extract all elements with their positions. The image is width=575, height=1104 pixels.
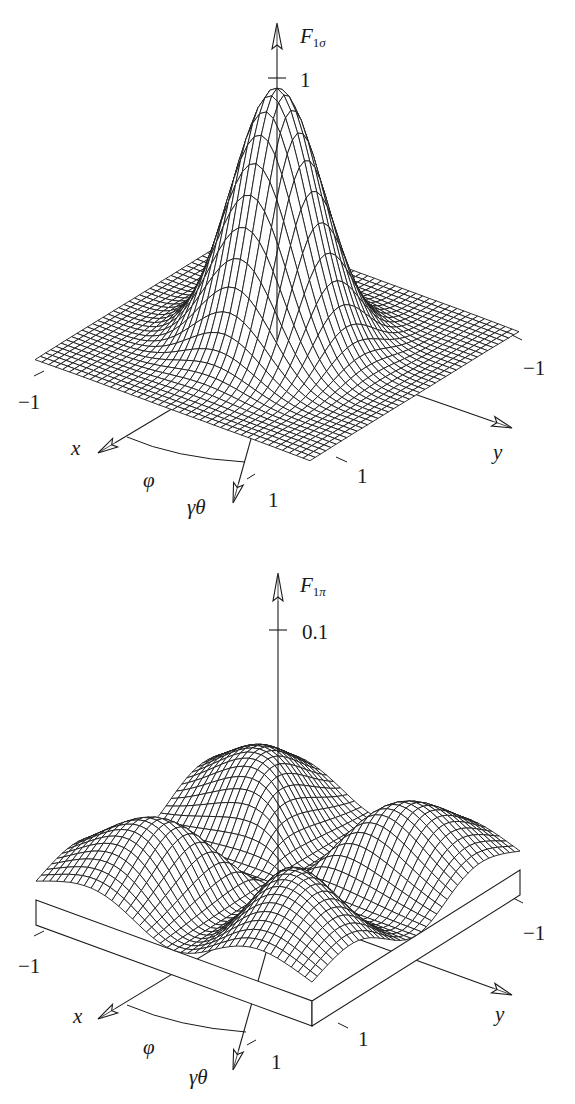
chart-panel-f1sigma: F1σ 1 −1 −1 1 1 x y φ γθ xyxy=(0,0,575,540)
x-axis-label: x xyxy=(71,438,80,459)
surface-plot-f1sigma xyxy=(0,0,575,540)
y-tick-minus-label: −1 xyxy=(523,923,545,944)
z-tick-label: 1 xyxy=(300,70,311,91)
y-axis-label: y xyxy=(493,442,502,463)
z-axis-label: F1σ xyxy=(300,26,326,49)
z-tick-label: 0.1 xyxy=(302,622,328,643)
y-tick-minus-label: −1 xyxy=(523,358,545,379)
surface-plot-f1pi xyxy=(0,540,575,1104)
gamma-theta-label: γθ xyxy=(187,497,206,518)
phi-label: φ xyxy=(143,1037,155,1058)
z-axis-label: F1π xyxy=(300,575,326,598)
gamma-theta-label: γθ xyxy=(189,1067,208,1088)
phi-angle-arc xyxy=(127,437,245,462)
x-axis-label: x xyxy=(73,1006,82,1027)
x-tick-minus-label: −1 xyxy=(18,392,40,413)
y-tick-plus-label: 1 xyxy=(357,466,368,487)
x-tick-minus-label: −1 xyxy=(18,956,40,977)
y-tick-plus-label: 1 xyxy=(358,1029,369,1050)
phi-angle-arc xyxy=(127,1005,246,1032)
x-tick-plus-label: 1 xyxy=(268,490,279,511)
phi-label: φ xyxy=(143,470,155,491)
chart-panel-f1pi: F1π 0.1 −1 −1 1 1 x y φ γθ xyxy=(0,540,575,1104)
x-tick-plus-label: 1 xyxy=(271,1052,282,1073)
y-axis-label: y xyxy=(495,1004,504,1025)
